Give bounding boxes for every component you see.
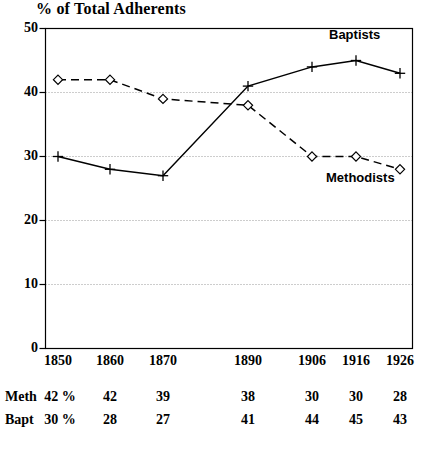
data-point-marker-diamond	[307, 152, 316, 161]
table-cell: 42	[80, 389, 140, 405]
series-line-methodists	[53, 75, 404, 174]
data-point-marker-diamond	[53, 75, 62, 84]
data-point-marker-diamond	[351, 152, 360, 161]
table-cell: 43	[370, 412, 427, 428]
plot-frame	[46, 29, 413, 349]
data-point-marker-diamond	[158, 94, 167, 103]
series-line-baptists	[53, 55, 405, 181]
gridlines	[46, 93, 413, 285]
data-point-marker-plus	[351, 55, 361, 65]
chart-figure: % of Total Adherents 50 40 30 20 10 0 18…	[0, 0, 427, 453]
plot-area	[0, 0, 427, 453]
table-cell: 28	[80, 412, 140, 428]
table-cell: 41	[218, 412, 278, 428]
series-label-methodists: Methodists	[326, 170, 395, 185]
table-cell: 28	[370, 389, 427, 405]
data-point-marker-plus	[105, 164, 115, 174]
data-point-marker-plus	[395, 68, 405, 78]
y-axis-ticks	[40, 29, 46, 349]
table-cell: 38	[218, 389, 278, 405]
table-cell: 27	[133, 412, 193, 428]
series-label-baptists: Baptists	[329, 27, 380, 42]
data-point-marker-diamond	[395, 165, 404, 174]
table-cell: 39	[133, 389, 193, 405]
data-point-marker-plus	[53, 151, 63, 161]
data-point-marker-diamond	[105, 75, 114, 84]
data-point-marker-plus	[307, 62, 317, 72]
series-polyline	[58, 80, 400, 170]
